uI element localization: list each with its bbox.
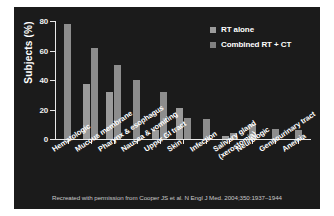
legend-label: RT alone — [221, 25, 254, 34]
y-tick-mark — [50, 110, 55, 111]
legend-item: Combined RT + CT — [210, 40, 291, 49]
source-footnote: Recreated with permission from Cooper JS… — [14, 194, 320, 201]
legend-swatch-icon — [210, 27, 216, 33]
y-tick-label: 0 — [44, 135, 48, 144]
x-tick-mark — [183, 139, 184, 144]
chart-panel: Subjects (%) 020406080 HematologicMucous… — [14, 7, 320, 209]
y-tick-mark — [50, 139, 55, 140]
bar — [91, 48, 98, 139]
y-axis-title: Subjects (%) — [23, 14, 34, 92]
y-tick-label: 80 — [40, 17, 49, 26]
bar — [64, 24, 71, 139]
legend: RT aloneCombined RT + CT — [210, 25, 291, 55]
y-tick-mark — [50, 51, 55, 52]
legend-item: RT alone — [210, 25, 291, 34]
y-tick-label: 20 — [40, 105, 49, 114]
x-axis-label: Skin — [166, 138, 184, 154]
y-tick-mark — [50, 21, 55, 22]
y-tick-label: 60 — [40, 46, 49, 55]
chart-screenshot: Subjects (%) 020406080 HematologicMucous… — [0, 0, 334, 216]
y-tick-mark — [50, 80, 55, 81]
legend-swatch-icon — [210, 42, 216, 48]
legend-label: Combined RT + CT — [221, 40, 291, 49]
y-tick-label: 40 — [40, 76, 49, 85]
